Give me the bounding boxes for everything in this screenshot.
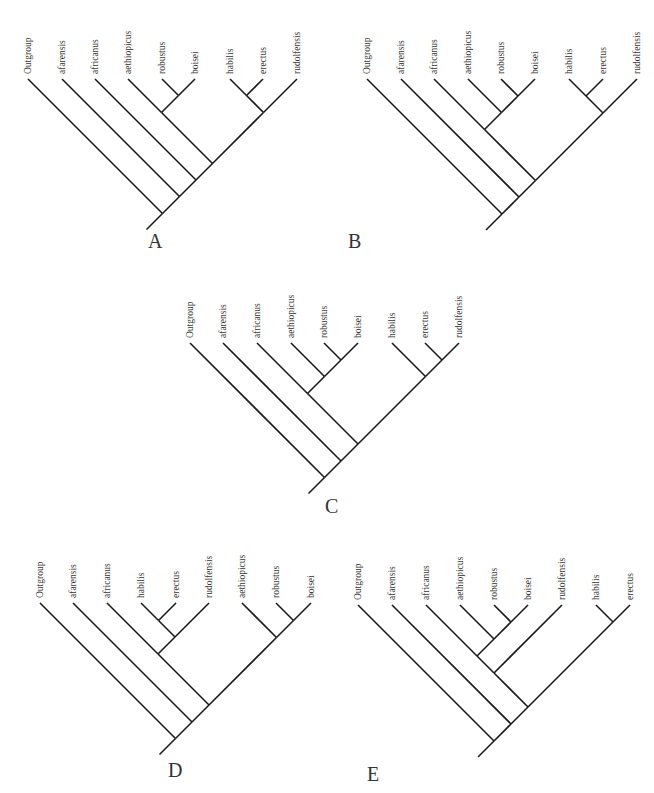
branch (294, 603, 312, 621)
branch (196, 164, 213, 181)
branch (163, 197, 180, 214)
branch (477, 656, 494, 673)
branch (291, 343, 325, 377)
branch (324, 343, 341, 360)
cladogram-A: Outgroupafarensisafricanusaethiopicusrob… (23, 30, 302, 252)
branch (107, 603, 158, 654)
tree-letter-label: D (168, 759, 182, 781)
root-stem (478, 741, 494, 757)
taxon-label: habilis (591, 574, 601, 600)
taxon-label: africanus (252, 303, 262, 338)
branch (209, 638, 277, 706)
taxon-label: Outgroup (362, 37, 372, 74)
cladogram-B: Outgroupafarensisafricanusaethiopicusrob… (348, 30, 642, 252)
taxon-label: rudolfensis (454, 295, 464, 338)
branch (308, 394, 359, 445)
taxon-label: robustus (157, 42, 167, 75)
taxon-label: habilis (225, 48, 235, 74)
branch (242, 603, 277, 638)
branch (308, 377, 325, 394)
taxon-label: robustus (496, 42, 506, 75)
branch (341, 444, 358, 461)
taxon-label: afarensis (396, 40, 406, 74)
tree-letter-label: A (148, 230, 163, 252)
branch (586, 79, 603, 96)
branch (426, 605, 477, 656)
branch (494, 605, 511, 622)
branch (518, 79, 535, 96)
branch (162, 96, 179, 113)
taxon-label: afarensis (68, 564, 78, 598)
taxon-label: africanus (102, 563, 112, 598)
branch (596, 605, 613, 622)
taxon-label: afarensis (387, 566, 397, 600)
branch (460, 605, 494, 639)
taxon-label: boisei (530, 51, 540, 74)
branch (62, 79, 180, 197)
taxon-label: habilis (564, 48, 574, 74)
branch (603, 79, 637, 113)
taxon-label: erectus (171, 571, 181, 598)
branch (162, 113, 213, 164)
branch (128, 79, 162, 113)
taxon-label: boisei (353, 315, 363, 338)
root-stem (160, 739, 176, 755)
branch (180, 180, 197, 197)
cladogram-figure: Outgroupafarensisafricanusaethiopicusrob… (0, 0, 654, 793)
branch (367, 79, 502, 214)
root-stem (486, 214, 502, 230)
taxon-label: afarensis (57, 40, 67, 74)
taxon-label: rudolfensis (557, 557, 567, 600)
branch (158, 654, 209, 705)
taxon-label: rudolfensis (632, 31, 642, 74)
taxon-label: rudolfensis (204, 555, 214, 598)
branch (442, 343, 459, 360)
taxon-label: aethiopicus (286, 294, 296, 338)
taxon-label: robustus (319, 306, 329, 339)
branch (223, 343, 341, 461)
taxon-label: erectus (420, 311, 430, 338)
branch (159, 603, 177, 621)
cladogram-E: Outgroupafarensisafricanusaethiopicusrob… (353, 556, 635, 785)
branch (502, 96, 519, 113)
taxon-label: erectus (625, 573, 635, 600)
taxon-label: boisei (523, 577, 533, 600)
taxon-label: rudolfensis (292, 31, 302, 74)
taxon-label: Outgroup (353, 563, 363, 600)
taxon-label: boisei (190, 51, 200, 74)
branch (425, 343, 442, 360)
branch (175, 603, 209, 637)
branch (358, 377, 426, 445)
branch (341, 343, 358, 360)
taxon-label: aethiopicus (455, 556, 465, 600)
taxon-label: Outgroup (185, 301, 195, 338)
taxon-label: boisei (306, 575, 316, 598)
branch (536, 113, 604, 181)
branch (494, 622, 511, 639)
branch (494, 724, 511, 741)
tree-letter-label: E (367, 763, 379, 785)
branch (392, 343, 426, 377)
cladogram-D: Outgroupafarensisafricanushabiliserectus… (35, 554, 316, 781)
branch (230, 79, 247, 96)
taxon-label: erectus (258, 47, 268, 74)
branch (401, 79, 519, 197)
branch (569, 79, 586, 96)
taxon-label: africanus (421, 565, 431, 600)
branch (586, 96, 603, 113)
root-stem (147, 214, 163, 230)
branch (276, 603, 294, 621)
branch (519, 181, 536, 198)
branch (613, 605, 630, 622)
branch (179, 79, 196, 96)
branch (162, 79, 179, 96)
cladogram-C: Outgroupafarensisafricanusaethiopicusrob… (185, 294, 464, 517)
taxon-label: robustus (271, 566, 281, 599)
branch (277, 621, 294, 638)
branch (28, 79, 163, 214)
branch (190, 343, 325, 478)
taxon-label: aethiopicus (237, 554, 247, 598)
taxon-label: Outgroup (35, 561, 45, 598)
branch (40, 603, 176, 739)
taxon-label: africanus (90, 39, 100, 74)
